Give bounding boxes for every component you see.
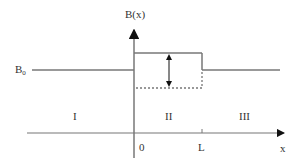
region-I-label: I (73, 111, 77, 122)
region-III-label: III (239, 111, 250, 122)
baseline-label-sub: 0 (22, 69, 26, 77)
arrow-down-icon (166, 81, 172, 87)
tick-label-0: 0 (139, 142, 145, 153)
x-axis-label: x (280, 143, 286, 154)
region-II-label: II (165, 111, 172, 122)
tick-label-L: L (198, 142, 205, 153)
arrow-up-icon (166, 54, 172, 60)
magnetic-field-diagram (0, 0, 303, 162)
y-axis-label: B(x) (125, 9, 145, 20)
baseline-label: B0 (15, 64, 26, 77)
